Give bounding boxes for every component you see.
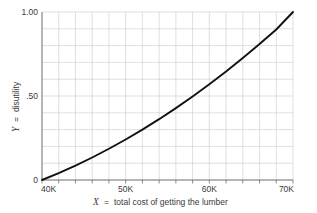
- chart-figure: 40K50K60K70K 0.501.00 X = total cost of …: [0, 0, 317, 213]
- x-tick-label: 70K: [279, 184, 294, 194]
- x-axis-title-text: total cost of getting the lumber: [114, 197, 228, 207]
- x-axis-variable: X: [92, 197, 100, 207]
- x-tick-label: 60K: [202, 184, 217, 194]
- x-axis-equals: =: [104, 197, 109, 207]
- y-tick-label: 0: [33, 175, 38, 185]
- chart-background: [0, 0, 317, 213]
- x-tick-label: 40K: [41, 184, 56, 194]
- y-axis-equals: =: [11, 117, 21, 122]
- y-axis-title-text: disutility: [11, 81, 21, 112]
- y-tick-label: 1.00: [21, 7, 38, 17]
- disutility-line-chart: 40K50K60K70K 0.501.00 X = total cost of …: [0, 0, 317, 213]
- x-tick-label: 50K: [118, 184, 133, 194]
- y-tick-label: .50: [26, 91, 38, 101]
